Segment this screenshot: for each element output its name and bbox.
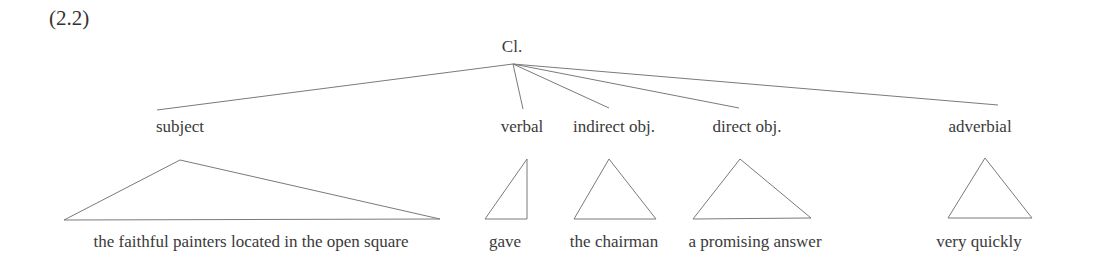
phrase-label: gave — [489, 233, 521, 250]
role-label: verbal — [501, 118, 543, 135]
role-label: direct obj. — [713, 118, 782, 135]
phrase-triangle — [948, 158, 1032, 218]
phrase-label: the chairman — [570, 233, 658, 250]
phrase-label: a promising answer — [688, 233, 821, 250]
phrase-triangle — [693, 159, 811, 219]
root-node-label: Cl. — [502, 38, 522, 55]
branch-line-verbal — [513, 64, 523, 109]
branch-line-adverbial — [513, 64, 998, 105]
role-label: indirect obj. — [573, 118, 655, 135]
branch-line-direct-obj — [513, 64, 739, 108]
phrase-label: very quickly — [936, 233, 1021, 250]
branch-line-subject — [157, 64, 513, 110]
phrase-label: the faithful painters located in the ope… — [94, 233, 409, 250]
phrase-triangle — [574, 159, 656, 219]
phrase-triangle — [64, 160, 440, 220]
role-label: adverbial — [948, 118, 1011, 135]
phrase-triangle — [485, 159, 527, 219]
role-label: subject — [156, 118, 204, 135]
